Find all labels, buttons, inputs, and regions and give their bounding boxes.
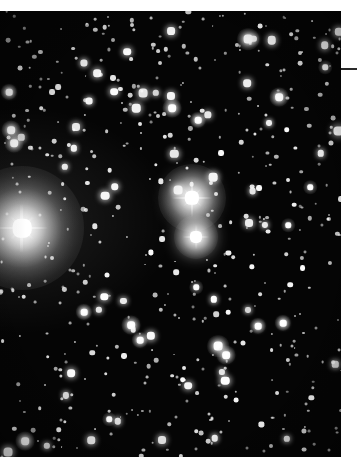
star-point [271,380,273,382]
star-point [166,449,168,451]
pointer-line [341,68,357,70]
star-point [219,430,222,433]
star-point [93,296,95,298]
star-point [243,79,251,87]
star-point [143,381,146,384]
double-star-north [185,191,199,205]
star-point [245,128,248,131]
star-point [95,307,101,313]
star-point [25,109,29,113]
star-point [245,219,253,227]
star-point [207,413,210,416]
star-point [72,123,80,131]
star-point [34,301,37,304]
star-point [173,313,176,316]
star-point [38,147,41,150]
star-point [48,242,50,244]
star-point [93,69,101,77]
star-point [27,119,30,122]
star-point [255,323,262,330]
star-point [10,139,18,147]
star-point [11,289,14,292]
star-point [280,320,287,327]
star-point [32,55,36,59]
star-point [275,391,279,395]
star-point [60,28,62,30]
star-point [93,154,97,158]
star-point [47,78,49,80]
star-point [98,240,101,243]
star-point [85,180,89,184]
double-star-south [190,231,202,243]
star-point [6,212,9,215]
star-point [294,315,296,317]
star-point [46,355,50,359]
star-point [265,63,269,67]
star-point [185,399,188,402]
star-point [253,132,256,135]
star-point [60,209,62,211]
star-point [76,447,78,449]
star-point [168,133,173,138]
star-point [202,161,204,163]
star-point [259,216,261,218]
star-point [47,245,49,247]
star-point [150,121,153,124]
star-point [83,129,86,132]
star-point [55,84,61,90]
star-point [21,294,26,299]
star-point [111,393,116,398]
star-point [237,172,239,174]
star-point [258,49,260,51]
star-point [52,445,55,448]
star-point [264,114,267,117]
star-point [182,82,184,84]
star-point [75,57,78,60]
star-point [331,44,335,48]
star-point [315,327,318,330]
star-point [226,310,231,315]
star-point [38,213,41,216]
star-point [167,423,170,426]
star-point [61,446,63,448]
star-point [127,321,135,329]
star-point [282,428,284,430]
star-point [159,264,162,267]
star-point [198,66,201,69]
star-point [278,297,281,300]
star-point [179,26,182,29]
star-point [108,48,111,51]
star-point [151,441,154,444]
star-point [90,150,94,154]
star-point [63,197,67,201]
star-point [289,32,293,36]
star-point [45,153,49,157]
star-point [297,61,302,66]
star-point [218,224,222,228]
star-point [284,414,286,416]
star-point [312,443,315,446]
star-point [339,409,341,413]
star-point [259,422,264,427]
star-point [169,179,171,181]
star-point [300,256,304,260]
star-point [318,92,323,97]
star-point [265,25,267,27]
star-point [167,27,175,35]
star-point [81,309,88,316]
star-point [100,59,103,62]
star-point [69,406,72,409]
star-point [304,251,307,254]
star-point [106,356,109,359]
star-point [123,48,131,56]
star-point [12,426,16,430]
star-point [132,28,135,31]
bright-star-west [13,219,32,238]
star-point [6,89,13,96]
star-point [156,76,159,79]
star-point [335,431,338,434]
star-point [249,264,254,269]
star-point [57,121,59,123]
star-point [327,448,330,451]
star-point [67,228,69,230]
